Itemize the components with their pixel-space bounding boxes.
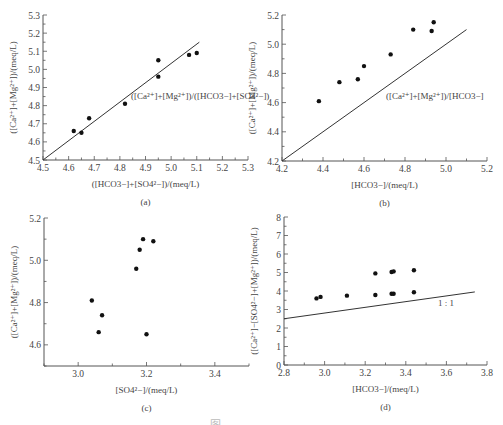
x-tick-label: 5.1 — [191, 163, 203, 173]
data-point — [356, 77, 360, 81]
data-point — [318, 295, 322, 299]
x-tick-label: 4.9 — [140, 163, 152, 173]
data-point — [429, 29, 433, 33]
y-tick-label: 5 — [276, 268, 281, 278]
y-tick-label: 4 — [276, 287, 281, 297]
x-tick-label: 3.6 — [440, 368, 452, 378]
y-tick-label: 5.0 — [267, 40, 279, 50]
x-tick-label: 3.0 — [319, 368, 331, 378]
y-tick-label: 4.9 — [28, 83, 40, 93]
y-axis-title: ([Ca²⁺]+[Mg²⁺])/(meq/L) — [8, 41, 18, 133]
data-point — [314, 296, 318, 300]
y-axis-title: ([Ca²⁺]−[SO4²−]+[Mg²⁺])/(meq/L) — [249, 227, 259, 354]
panel-d-chart: 2.83.03.23.43.63.8012345678[HCO3−]/(meq/… — [249, 213, 493, 413]
data-point — [345, 293, 349, 297]
data-point — [144, 332, 148, 336]
x-tick-label: 5.2 — [481, 164, 493, 174]
data-point — [123, 102, 127, 106]
data-point — [337, 80, 341, 84]
data-point — [100, 313, 104, 317]
data-point — [317, 99, 321, 103]
panel-label: (c) — [142, 403, 152, 413]
y-tick-label: 6 — [276, 250, 281, 260]
y-tick-label: 4.5 — [28, 156, 40, 166]
y-tick-label: 4.6 — [28, 137, 40, 147]
data-point — [391, 292, 395, 296]
x-tick-label: 5.2 — [216, 163, 228, 173]
y-tick-label: 4.8 — [267, 69, 279, 79]
x-tick-label: 3.2 — [141, 369, 153, 379]
y-tick-label: 5.2 — [28, 29, 40, 39]
x-tick-label: 3.8 — [481, 368, 493, 378]
x-tick-label: 3.0 — [72, 369, 84, 379]
data-point — [90, 298, 94, 302]
y-tick-label: 5.1 — [28, 47, 40, 57]
y-tick-label: 7 — [276, 231, 281, 241]
x-tick-label: 4.7 — [88, 163, 100, 173]
x-tick-label: 4.4 — [317, 164, 329, 174]
x-axis-title: [HCO3−]/(meq/L) — [351, 180, 418, 190]
annotation-label: 1 : 1 — [438, 298, 454, 308]
data-point — [373, 271, 377, 275]
data-point — [96, 330, 100, 334]
data-point — [195, 51, 199, 55]
x-tick-label: 5.0 — [440, 164, 452, 174]
y-tick-label: 0 — [276, 361, 281, 371]
y-tick-label: 2 — [276, 324, 281, 334]
x-axis-title: [SO4²−]/(meq/L) — [116, 385, 178, 395]
data-point — [79, 131, 83, 135]
panel-label: (b) — [379, 198, 390, 208]
data-point — [156, 58, 160, 62]
data-point — [411, 27, 415, 31]
x-axis-title: [HCO3−]/(meq/L) — [352, 384, 419, 394]
data-point — [412, 268, 416, 272]
x-tick-label: 4.6 — [63, 163, 75, 173]
data-point — [141, 237, 145, 241]
x-tick-label: 3.4 — [209, 369, 221, 379]
y-tick-label: 4.2 — [267, 157, 279, 167]
data-point — [412, 290, 416, 294]
y-tick-label: 4.8 — [28, 101, 40, 111]
data-point — [373, 293, 377, 297]
y-tick-label: 5.3 — [28, 11, 40, 21]
y-axis-title: ([Ca²⁺]+[Mg²⁺])/(meq/L) — [247, 42, 257, 134]
figure-caption: 图 … … … … — [0, 416, 503, 425]
x-tick-label: 4.8 — [399, 164, 411, 174]
y-tick-label: 3 — [276, 305, 281, 315]
data-point — [72, 129, 76, 133]
panel-a-chart: 4.54.64.74.84.95.05.15.25.34.54.64.74.84… — [8, 11, 269, 208]
data-point — [391, 269, 395, 273]
x-tick-label: 4.6 — [358, 164, 370, 174]
panel-label: (d) — [380, 402, 391, 412]
data-point — [388, 52, 392, 56]
reference-line — [43, 42, 199, 160]
figure-canvas: 4.54.64.74.84.95.05.15.25.34.54.64.74.84… — [0, 0, 503, 425]
x-tick-label: 3.2 — [359, 368, 371, 378]
y-tick-label: 5.2 — [267, 11, 279, 21]
y-axis-title: ([Ca²⁺]+[Mg²⁺])/(meq/L) — [9, 246, 19, 338]
data-point — [137, 248, 141, 252]
panel-label: (a) — [141, 197, 151, 207]
x-tick-label: 5.3 — [242, 163, 254, 173]
y-tick-label: 5.2 — [29, 214, 41, 224]
data-point — [432, 20, 436, 24]
y-tick-label: 5.0 — [28, 65, 40, 75]
y-tick-label: 8 — [276, 213, 281, 223]
data-point — [187, 53, 191, 57]
data-point — [362, 64, 366, 68]
x-tick-label: 5.0 — [165, 163, 177, 173]
y-tick-label: 4.8 — [29, 298, 41, 308]
y-tick-label: 5.0 — [29, 256, 41, 266]
y-tick-label: 1 — [276, 342, 281, 352]
data-point — [151, 239, 155, 243]
panel-b-chart: 4.24.44.64.85.05.24.24.44.64.85.05.2[HCO… — [247, 11, 493, 209]
data-point — [156, 74, 160, 78]
annotation-label: ([Ca²⁺]+[Mg²⁺])/[HCO3−] — [386, 91, 484, 101]
y-tick-label: 4.4 — [267, 127, 279, 137]
y-tick-label: 4.6 — [29, 340, 41, 350]
data-point — [134, 267, 138, 271]
x-tick-label: 4.8 — [114, 163, 126, 173]
y-tick-label: 4.7 — [28, 119, 40, 129]
panel-c-chart: 3.03.23.44.64.85.05.2[SO4²−]/(meq/L)([Ca… — [9, 214, 249, 414]
y-tick-label: 4.6 — [267, 98, 279, 108]
